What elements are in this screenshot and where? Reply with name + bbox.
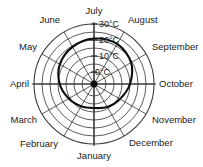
month-label-july: July — [86, 5, 103, 16]
month-label-february: February — [20, 138, 58, 149]
polar-chart-svg: 30°C 20°C 10°C 0°C July August September… — [0, 0, 203, 167]
month-label-october: October — [159, 78, 193, 89]
ring-label-30c: 30°C — [99, 19, 120, 29]
chart-center-hub — [91, 81, 98, 88]
month-label-august: August — [128, 14, 158, 25]
month-label-march: March — [11, 114, 37, 125]
month-label-november: November — [152, 114, 196, 125]
month-label-january: January — [77, 150, 111, 161]
ring-label-20c: 20°C — [99, 35, 120, 45]
polar-temperature-chart: 30°C 20°C 10°C 0°C July August September… — [0, 0, 203, 167]
month-label-december: December — [129, 137, 173, 148]
month-label-september: September — [152, 41, 198, 52]
ring-label-0c: 0°C — [95, 67, 111, 77]
month-label-may: May — [19, 41, 37, 52]
ring-label-10c: 10°C — [99, 51, 120, 61]
month-label-april: April — [10, 78, 29, 89]
month-label-june: June — [39, 14, 60, 25]
